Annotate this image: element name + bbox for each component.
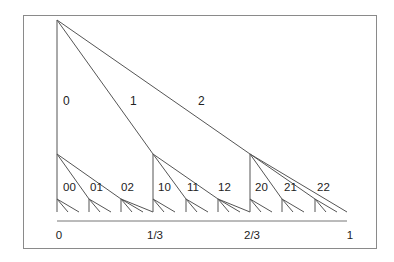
branch-label-10: 10: [158, 181, 171, 193]
branch-label-01: 01: [90, 181, 103, 193]
branch-label-20: 20: [255, 181, 268, 193]
axis-label-two-thirds: 2/3: [244, 229, 260, 241]
branch-label-22: 22: [317, 181, 330, 193]
branch-1: [57, 20, 153, 154]
branch-label-11: 11: [187, 181, 199, 193]
branch-label-12: 12: [218, 181, 231, 193]
ternary-tree: [0, 0, 394, 262]
branch-label-02: 02: [121, 181, 134, 193]
branch-label-1: 1: [130, 95, 137, 107]
branch-label-00: 00: [63, 181, 76, 193]
axis-label-1: 1: [347, 229, 353, 241]
branch-2: [57, 20, 250, 154]
axis-label-one-third: 1/3: [147, 229, 163, 241]
branch-label-2: 2: [198, 95, 205, 107]
branch-label-0: 0: [63, 95, 70, 107]
branch-label-21: 21: [284, 181, 297, 193]
axis-label-0: 0: [56, 229, 62, 241]
